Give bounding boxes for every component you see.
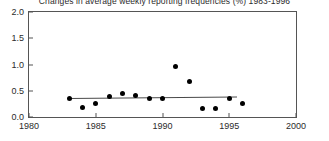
x-tick-mark (29, 113, 30, 117)
y-tick-label: 1.5 (11, 34, 24, 43)
data-point (120, 91, 125, 96)
x-tick-label: 1995 (219, 122, 239, 131)
x-tick-label: 1990 (152, 122, 172, 131)
data-point (200, 106, 205, 111)
x-tick-mark (296, 113, 297, 117)
y-tick-label: 1.0 (11, 60, 24, 69)
data-point (160, 96, 165, 101)
data-point (80, 105, 85, 110)
data-point (107, 94, 112, 99)
x-tick-label: 2000 (286, 122, 306, 131)
y-tick-mark (29, 117, 33, 118)
x-tick-mark (95, 113, 96, 117)
x-tick-label: 1985 (86, 122, 106, 131)
plot-area: 0.00.51.01.52.0 19801985199019952000 (28, 11, 297, 118)
trend-line (69, 96, 237, 99)
chart-title: Changes in average weekly reporting freq… (0, 0, 329, 6)
y-tick-label: 0.5 (11, 86, 24, 95)
y-tick-mark (29, 12, 33, 13)
data-point (147, 96, 152, 101)
data-point (173, 64, 178, 69)
data-point (67, 96, 72, 101)
data-point (187, 79, 192, 84)
data-point (240, 101, 245, 106)
x-tick-label: 1980 (19, 122, 39, 131)
data-point (93, 101, 98, 106)
y-tick-mark (29, 64, 33, 65)
x-tick-mark (162, 113, 163, 117)
y-tick-mark (29, 90, 33, 91)
data-point (227, 96, 232, 101)
x-tick-mark (229, 113, 230, 117)
y-tick-label: 2.0 (11, 8, 24, 17)
chart-figure: Changes in average weekly reporting freq… (0, 0, 329, 141)
data-point (213, 106, 218, 111)
y-tick-mark (29, 38, 33, 39)
